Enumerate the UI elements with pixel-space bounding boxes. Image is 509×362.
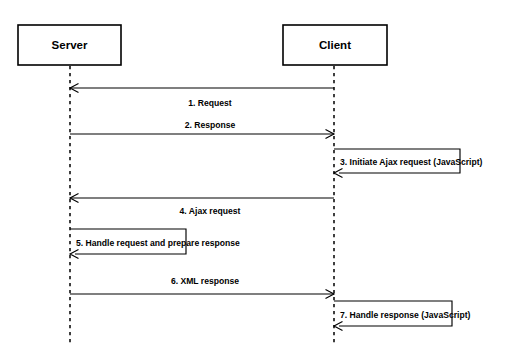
message-label-2: 2. Response (185, 120, 236, 130)
participant-label-server: Server (52, 39, 88, 51)
message-2[interactable]: 2. Response (70, 120, 334, 138)
sequence-diagram: ServerClient 1. Request2. Response3. Ini… (0, 0, 509, 362)
participant-client[interactable]: Client (283, 25, 387, 65)
message-6[interactable]: 6. XML response (70, 276, 334, 298)
message-label-1: 1. Request (188, 98, 232, 108)
participant-server[interactable]: Server (18, 25, 121, 65)
message-7[interactable]: 7. Handle response (JavaScript) (334, 301, 471, 331)
message-3[interactable]: 3. Initiate Ajax request (JavaScript) (334, 149, 483, 178)
message-label-6: 6. XML response (171, 276, 239, 286)
message-label-7: 7. Handle response (JavaScript) (340, 310, 471, 320)
message-5[interactable]: 5. Handle request and prepare response (70, 229, 240, 259)
message-label-3: 3. Initiate Ajax request (JavaScript) (340, 157, 483, 167)
message-label-4: 4. Ajax request (180, 206, 241, 216)
message-label-5: 5. Handle request and prepare response (76, 238, 240, 248)
message-4[interactable]: 4. Ajax request (70, 193, 334, 216)
participant-label-client: Client (319, 39, 351, 51)
participant-group: ServerClient (18, 25, 387, 65)
message-group: 1. Request2. Response3. Initiate Ajax re… (70, 83, 483, 330)
diagram-canvas: ServerClient 1. Request2. Response3. Ini… (0, 0, 509, 362)
message-1[interactable]: 1. Request (70, 83, 334, 108)
